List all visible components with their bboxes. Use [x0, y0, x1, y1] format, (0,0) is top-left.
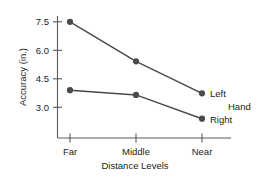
- data-point-left-near: [199, 90, 205, 96]
- x-tick-label-middle: Middle: [122, 146, 150, 157]
- data-point-left-middle: [133, 58, 139, 64]
- data-point-right-far: [67, 87, 73, 93]
- x-axis-title: Distance Levels: [101, 160, 168, 171]
- y-tick-label-3-0: 3.0: [36, 102, 49, 113]
- y-axis-title: Accuracy (in.): [17, 48, 28, 106]
- y-tick-label-7-5: 7.5: [36, 16, 49, 27]
- legend-label-left: Left: [210, 88, 226, 99]
- series-left-line: [70, 22, 202, 94]
- data-point-left-far: [67, 19, 73, 25]
- data-point-right-middle: [133, 92, 139, 98]
- data-point-right-near: [199, 116, 205, 122]
- y-tick-label-4-5: 4.5: [36, 73, 49, 84]
- x-tick-label-far: Far: [63, 146, 77, 157]
- series-left: [67, 19, 205, 97]
- series-right: [67, 87, 205, 122]
- y-tick-label-6-0: 6.0: [36, 45, 49, 56]
- legend-title: Hand: [228, 101, 251, 112]
- x-tick-label-near: Near: [192, 146, 213, 157]
- chart-container: 7.5 6.0 4.5 3.0 Far Middle Near Distance…: [0, 0, 260, 179]
- line-chart: 7.5 6.0 4.5 3.0 Far Middle Near Distance…: [0, 0, 260, 179]
- legend-label-right: Right: [210, 114, 233, 125]
